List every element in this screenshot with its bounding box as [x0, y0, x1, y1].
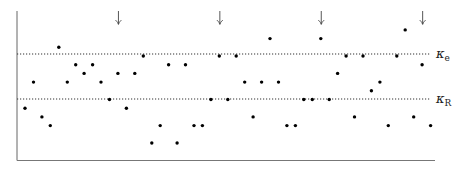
data-point: [32, 80, 35, 83]
data-point: [218, 54, 221, 57]
data-point: [336, 72, 339, 75]
data-point: [344, 54, 347, 57]
data-point: [184, 63, 187, 66]
data-point: [420, 63, 423, 66]
data-point: [235, 54, 238, 57]
data-point: [260, 80, 263, 83]
data-point: [66, 80, 69, 83]
data-point: [49, 124, 52, 127]
data-point: [209, 98, 212, 101]
data-point: [133, 72, 136, 75]
data-point: [285, 124, 288, 127]
data-point: [23, 107, 26, 110]
data-point: [370, 89, 373, 92]
data-point: [353, 115, 356, 118]
data-point: [251, 115, 254, 118]
data-point: [125, 107, 128, 110]
data-point: [108, 98, 111, 101]
data-point: [378, 80, 381, 83]
data-point: [277, 80, 280, 83]
down-arrow-icon: [420, 11, 426, 25]
down-arrow-icon: [318, 11, 324, 25]
data-point: [387, 124, 390, 127]
data-point: [99, 80, 102, 83]
data-point: [328, 98, 331, 101]
down-arrow-icon: [115, 11, 121, 25]
data-point: [412, 115, 415, 118]
data-points: [23, 28, 432, 145]
data-point: [319, 37, 322, 40]
data-point: [294, 124, 297, 127]
data-point: [302, 98, 305, 101]
data-point: [150, 141, 153, 144]
data-point: [268, 37, 271, 40]
data-point: [175, 141, 178, 144]
data-point: [429, 124, 432, 127]
data-point: [167, 63, 170, 66]
data-point: [201, 124, 204, 127]
data-point: [226, 98, 229, 101]
down-arrow-icon: [217, 11, 223, 25]
data-point: [40, 115, 43, 118]
data-point: [404, 28, 407, 31]
down-arrow-markers: [115, 11, 425, 25]
data-point: [57, 46, 60, 49]
data-point: [192, 124, 195, 127]
data-point: [361, 54, 364, 57]
data-point: [159, 124, 162, 127]
data-point: [243, 80, 246, 83]
data-point: [116, 72, 119, 75]
kappa-r-label: κR: [435, 91, 452, 108]
kappa-e-label: κe: [435, 46, 450, 63]
threshold-lines: [17, 54, 430, 99]
data-point: [91, 63, 94, 66]
data-point: [311, 98, 314, 101]
data-point: [74, 63, 77, 66]
scatter-chart: κe κR: [0, 0, 464, 172]
data-point: [142, 54, 145, 57]
data-point: [395, 54, 398, 57]
data-point: [82, 72, 85, 75]
